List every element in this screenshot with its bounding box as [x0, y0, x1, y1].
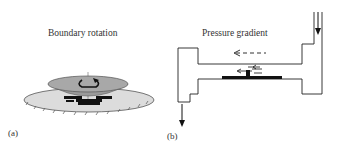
outflow-arrow-icon: [179, 104, 185, 127]
channel-outline: [178, 12, 322, 102]
pressure-gradient-arrow-icon: [234, 50, 266, 56]
panel-b-label: (b): [167, 131, 178, 141]
panel-b-title: Pressure gradient: [202, 28, 268, 38]
inflow-arrow-icon: [315, 12, 321, 35]
boundary-rotation-diagram: [0, 0, 342, 150]
